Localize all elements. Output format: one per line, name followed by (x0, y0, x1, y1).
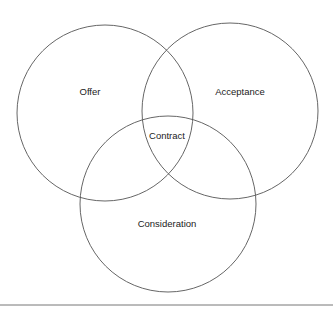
venn-diagram: Offer Acceptance Consideration Contract (0, 0, 333, 311)
consideration-label: Consideration (138, 218, 197, 229)
acceptance-label: Acceptance (215, 86, 265, 97)
contract-label: Contract (149, 130, 185, 141)
offer-circle (17, 25, 193, 201)
consideration-circle (80, 116, 256, 292)
acceptance-circle (142, 23, 318, 199)
venn-svg: Offer Acceptance Consideration Contract (0, 0, 333, 311)
offer-label: Offer (80, 86, 101, 97)
